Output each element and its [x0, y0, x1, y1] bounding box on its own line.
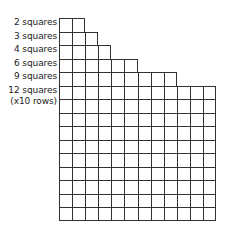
- grid-square: [164, 207, 177, 221]
- grid-square: [59, 167, 72, 181]
- grid-square: [177, 126, 190, 140]
- grid-square: [203, 126, 216, 140]
- grid-square: [124, 207, 137, 221]
- label-4-squares: 4 squares: [14, 44, 57, 55]
- grid-square: [111, 72, 124, 86]
- grid-square: [177, 153, 190, 167]
- grid-square: [151, 180, 164, 194]
- label-3-squares: 3 squares: [14, 31, 57, 42]
- grid-square: [138, 72, 151, 86]
- grid-square: [138, 180, 151, 194]
- grid-square: [85, 140, 98, 154]
- grid-row: [59, 99, 216, 113]
- grid-square: [111, 180, 124, 194]
- label-12-squares: 12 squares: [8, 85, 57, 96]
- grid-square: [151, 153, 164, 167]
- grid-row: [59, 207, 216, 221]
- grid-square: [59, 194, 72, 208]
- grid-square: [111, 140, 124, 154]
- grid-square: [111, 99, 124, 113]
- grid-square: [190, 113, 203, 127]
- grid-square: [164, 99, 177, 113]
- grid-square: [72, 86, 85, 100]
- grid-square: [164, 113, 177, 127]
- grid-square: [98, 59, 111, 73]
- grid-square: [203, 180, 216, 194]
- grid-square: [59, 86, 72, 100]
- grid-square: [138, 167, 151, 181]
- grid-row: [59, 59, 138, 73]
- grid-square: [85, 32, 98, 46]
- grid-row: [59, 45, 111, 59]
- grid-square: [151, 194, 164, 208]
- grid-square: [98, 72, 111, 86]
- grid-row: [59, 113, 216, 127]
- grid-square: [151, 72, 164, 86]
- grid-square: [72, 194, 85, 208]
- grid-square: [177, 180, 190, 194]
- grid-square: [138, 99, 151, 113]
- grid-square: [177, 207, 190, 221]
- grid-square: [190, 180, 203, 194]
- grid-square: [190, 207, 203, 221]
- grid-square: [203, 194, 216, 208]
- grid-square: [151, 113, 164, 127]
- grid-square: [85, 180, 98, 194]
- stepped-grid-diagram: 2 squares 3 squares 4 squares 6 squares …: [0, 0, 226, 230]
- grid-square: [59, 113, 72, 127]
- grid-square: [72, 59, 85, 73]
- grid-square: [151, 140, 164, 154]
- grid-square: [59, 153, 72, 167]
- grid-square: [98, 180, 111, 194]
- grid-square: [72, 18, 85, 32]
- grid-square: [138, 194, 151, 208]
- grid-square: [72, 32, 85, 46]
- grid-square: [85, 59, 98, 73]
- grid-square: [59, 126, 72, 140]
- grid-square: [59, 180, 72, 194]
- grid-square: [151, 207, 164, 221]
- grid-square: [72, 45, 85, 59]
- grid-square: [111, 153, 124, 167]
- grid-square: [203, 99, 216, 113]
- grid-square: [85, 113, 98, 127]
- grid-square: [98, 113, 111, 127]
- grid-square: [111, 194, 124, 208]
- grid-square: [59, 59, 72, 73]
- grid-square: [124, 72, 137, 86]
- grid-square: [138, 86, 151, 100]
- grid-square: [59, 45, 72, 59]
- grid-square: [85, 86, 98, 100]
- grid-square: [124, 167, 137, 181]
- grid-square: [164, 86, 177, 100]
- grid-square: [59, 18, 72, 32]
- grid-square: [190, 167, 203, 181]
- grid-square: [124, 126, 137, 140]
- grid-square: [111, 126, 124, 140]
- grid-square: [59, 140, 72, 154]
- grid-square: [111, 113, 124, 127]
- grid-square: [138, 113, 151, 127]
- grid-row: [59, 180, 216, 194]
- grid-square: [59, 99, 72, 113]
- grid-square: [98, 153, 111, 167]
- grid-square: [177, 140, 190, 154]
- grid-square: [85, 45, 98, 59]
- label-9-squares: 9 squares: [14, 71, 57, 82]
- grid-square: [98, 194, 111, 208]
- grid-square: [85, 126, 98, 140]
- grid-square: [203, 207, 216, 221]
- grid-square: [190, 126, 203, 140]
- grid-square: [164, 180, 177, 194]
- grid-row: [59, 86, 216, 100]
- grid-row: [59, 167, 216, 181]
- grid-square: [164, 194, 177, 208]
- grid-row: [59, 18, 85, 32]
- grid-square: [72, 126, 85, 140]
- grid-square: [124, 194, 137, 208]
- label-6-squares: 6 squares: [14, 58, 57, 69]
- grid-square: [111, 86, 124, 100]
- grid-square: [124, 140, 137, 154]
- grid-square: [177, 86, 190, 100]
- grid-square: [164, 153, 177, 167]
